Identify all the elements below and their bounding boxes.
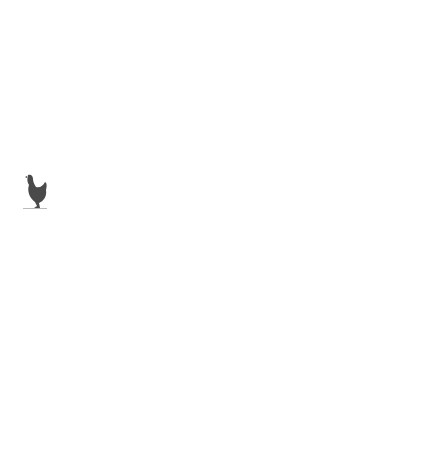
chicken-icon <box>23 175 47 209</box>
egg-size-comparison-figure <box>0 0 437 465</box>
